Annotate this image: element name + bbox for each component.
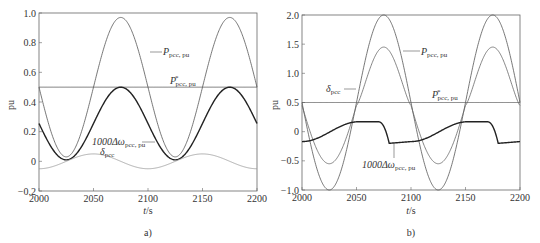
- figure: 1.00.80.60.40.20−0.2 2000205021002150220…: [0, 0, 540, 243]
- x-axis-label-a: t/s: [143, 205, 153, 216]
- y-tick-label: −0.5: [281, 155, 299, 166]
- y-axis-a: 1.00.80.60.40.20−0.2: [18, 8, 42, 197]
- label-pstar-pcc-a: P*pcc, pu: [169, 74, 196, 88]
- chart-b: 2.01.51.00.50−0.5−1.0 200020502100215022…: [269, 10, 530, 240]
- y-tick-label: 1.5: [287, 39, 300, 50]
- x-tick-label: 2150: [193, 193, 213, 204]
- x-tick-label: 2200: [247, 193, 267, 204]
- y-tick-label: 0.8: [24, 37, 37, 48]
- x-axis-a: 20002050210021502200: [29, 188, 267, 204]
- caption-a: a): [144, 227, 152, 239]
- caption-b: b): [407, 227, 415, 239]
- y-tick-label: 0.4: [24, 97, 37, 108]
- label-p-pcc-a: Ppcc, pu: [162, 46, 190, 59]
- y-tick-label: 0.2: [24, 126, 37, 137]
- label-p-pcc-b: Ppcc, pu: [420, 46, 448, 59]
- y-tick-label: 2.0: [287, 10, 300, 21]
- chart-a: 1.00.80.60.40.20−0.2 2000205021002150220…: [5, 8, 267, 240]
- x-tick-label: 2050: [347, 192, 367, 203]
- y-tick-label: 0: [294, 126, 299, 137]
- y-axis-label-b: pu: [269, 100, 280, 110]
- series-a: [39, 17, 257, 168]
- y-tick-label: 0.5: [287, 97, 300, 108]
- y-tick-label: 1.0: [287, 68, 300, 79]
- y-axis-label-a: pu: [5, 100, 16, 110]
- x-tick-label: 2100: [401, 192, 421, 203]
- line-domega-a: [39, 87, 257, 160]
- x-tick-label: 2050: [84, 193, 104, 204]
- plot-frame-a: [39, 13, 257, 191]
- y-tick-label: 0: [31, 156, 36, 167]
- y-axis-b: 2.01.51.00.50−0.5−1.0: [281, 10, 305, 196]
- line-delta-b: [302, 47, 520, 164]
- y-tick-label: 0.6: [24, 67, 37, 78]
- x-axis-label-b: t/s: [406, 205, 416, 216]
- label-delta-a: δpcc: [100, 146, 114, 159]
- x-tick-label: 2100: [138, 193, 158, 204]
- x-tick-label: 2150: [456, 192, 476, 203]
- line-delta-a: [39, 154, 257, 169]
- x-tick-label: 2000: [29, 193, 49, 204]
- y-tick-label: 1.0: [24, 8, 37, 19]
- label-pstar-pcc-b: P*pcc, pu: [431, 88, 458, 102]
- label-delta-b: δpcc: [326, 83, 340, 96]
- x-tick-label: 2200: [510, 192, 530, 203]
- line-domega-b: [302, 122, 520, 144]
- label-domega-b: 1000Δωpcc, pu: [362, 159, 416, 172]
- x-tick-label: 2000: [292, 192, 312, 203]
